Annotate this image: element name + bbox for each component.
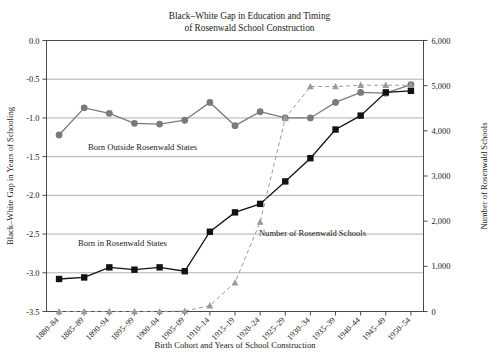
data-point-circle — [106, 110, 113, 117]
y-tick-label: -3.5 — [26, 308, 39, 317]
chart-figure: Black–White Gap in Education and Timing … — [0, 0, 499, 355]
data-point-circle — [257, 108, 264, 115]
data-point-square — [156, 264, 162, 270]
series-annotation: Born Outside Rosenwald States — [88, 142, 198, 152]
y2-tick-label: 4,000 — [432, 127, 451, 136]
data-point-square — [182, 268, 188, 274]
x-axis-label: Birth Cohort and Years of School Constru… — [154, 340, 316, 350]
data-point-circle — [156, 121, 163, 128]
data-point-circle — [357, 89, 364, 96]
data-point-square — [383, 89, 389, 95]
data-point-circle — [56, 132, 63, 139]
chart-canvas: Black–White Gap in Education and Timing … — [0, 0, 499, 355]
data-point-circle — [332, 99, 339, 106]
data-point-square — [357, 112, 363, 118]
data-point-square — [131, 266, 137, 272]
y2-tick-label: 6,000 — [432, 37, 451, 46]
y2-tick-label: 1,000 — [432, 262, 451, 271]
data-point-square — [332, 126, 338, 132]
chart-title: Black–White Gap in Education and Timing — [169, 11, 331, 21]
data-point-square — [106, 264, 112, 270]
y-tick-label: -1.0 — [26, 114, 39, 123]
data-point-square — [232, 209, 238, 215]
y-tick-label: 0.0 — [29, 37, 39, 46]
y2-axis-label: Number of Rosenwald Schools — [479, 122, 489, 230]
data-point-square — [81, 274, 87, 280]
chart-subtitle: of Rosenwald School Construction — [185, 23, 315, 33]
y-tick-label: -1.5 — [26, 153, 39, 162]
data-point-square — [307, 155, 313, 161]
data-point-circle — [307, 115, 314, 122]
y2-tick-label: 3,000 — [432, 172, 451, 181]
data-point-square — [282, 178, 288, 184]
data-point-square — [56, 276, 62, 282]
y2-tick-label: 2,000 — [432, 217, 451, 226]
data-point-square — [257, 201, 263, 207]
y2-tick-label: 0 — [432, 308, 436, 317]
data-point-square — [207, 229, 213, 235]
y-tick-label: -2.0 — [26, 191, 39, 200]
chart-background — [0, 0, 499, 355]
data-point-circle — [81, 104, 88, 111]
data-point-circle — [131, 120, 138, 127]
y-axis-label: Black–White Gap in Years of Schooling — [5, 106, 15, 245]
series-annotation: Number of Rosenwald Schools — [259, 228, 367, 238]
series-annotation: Born in Rosenwald States — [78, 238, 168, 248]
y-tick-label: -0.5 — [26, 75, 39, 84]
data-point-circle — [206, 99, 213, 106]
data-point-circle — [232, 122, 239, 129]
y-tick-label: -2.5 — [26, 230, 39, 239]
y-tick-label: -3.0 — [26, 269, 39, 278]
data-point-square — [408, 88, 414, 94]
y2-tick-label: 5,000 — [432, 82, 451, 91]
data-point-circle — [181, 117, 188, 124]
